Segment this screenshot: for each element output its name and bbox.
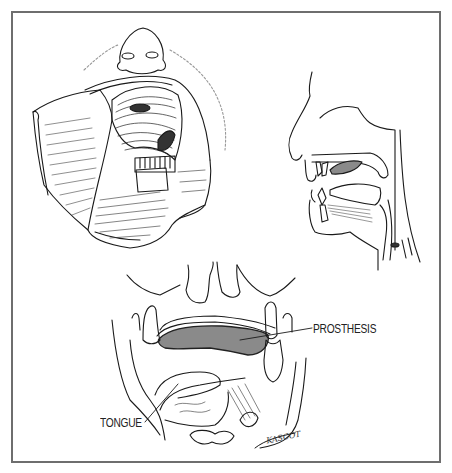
- prosthesis-shape: [158, 326, 268, 355]
- tongue-leader-line: [145, 384, 178, 422]
- prosthesis-label: PROSTHESIS: [313, 322, 376, 336]
- coronal-illustration: [112, 262, 312, 448]
- tongue-label: TONGUE: [100, 416, 142, 430]
- sagittal-illustration: [289, 72, 420, 270]
- illustration: [0, 0, 452, 473]
- open-mouth-illustration: [33, 28, 226, 248]
